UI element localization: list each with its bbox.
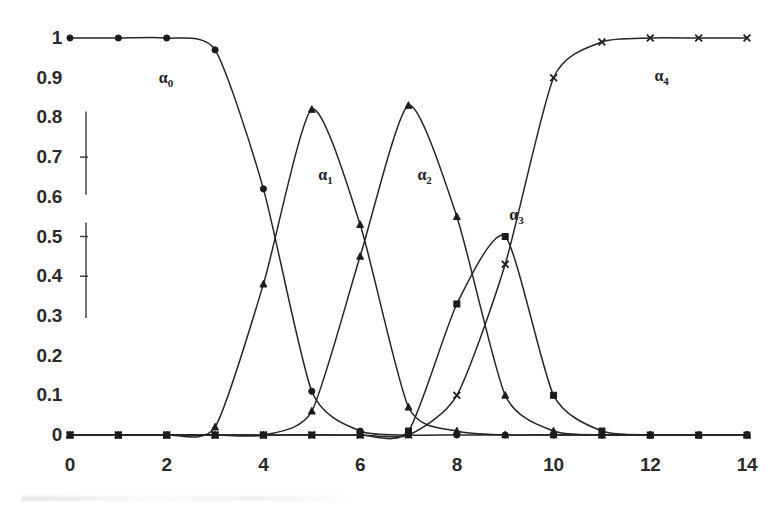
data-point-marker: [744, 432, 750, 438]
alpha-3-label: α3: [509, 207, 523, 226]
data-point-marker: [357, 221, 364, 228]
series-line-alpha-4: [70, 38, 747, 437]
data-point-marker: [647, 432, 653, 438]
data-point-marker: [696, 432, 702, 438]
data-point-marker: [405, 403, 412, 410]
alpha-glyph: α: [159, 69, 168, 86]
alpha-subscript: 4: [663, 75, 669, 87]
data-point-marker: [212, 47, 218, 53]
alpha-4-label: α4: [654, 68, 668, 87]
alpha-subscript: 1: [327, 174, 333, 186]
series-line-alpha-0: [70, 37, 747, 435]
data-point-marker: [357, 253, 364, 260]
series-curves: [70, 37, 747, 438]
data-point-marker: [502, 392, 509, 399]
chart-figure: 00.10.20.30.40.50.60.70.80.91 0246810121…: [0, 0, 775, 506]
data-point-marker: [309, 388, 315, 394]
data-point-marker: [550, 74, 557, 81]
series-markers: [67, 35, 751, 439]
alpha-0-label: α0: [159, 70, 173, 89]
alpha-glyph: α: [654, 67, 663, 84]
data-point-marker: [164, 35, 170, 41]
scan-artifact: [22, 496, 352, 501]
alpha-1-label: α1: [318, 167, 332, 186]
data-point-marker: [67, 35, 73, 41]
y-axis-line-fragments: [80, 111, 88, 317]
data-point-marker: [454, 301, 460, 307]
alpha-glyph: α: [509, 206, 518, 223]
data-point-marker: [453, 392, 460, 399]
alpha-2-label: α2: [417, 167, 431, 186]
alpha-glyph: α: [318, 166, 327, 183]
data-point-marker: [260, 186, 266, 192]
data-point-marker: [502, 234, 508, 240]
alpha-subscript: 3: [518, 214, 524, 226]
alpha-subscript: 2: [426, 174, 432, 186]
data-point-marker: [260, 280, 267, 287]
data-point-marker: [551, 392, 557, 398]
alpha-subscript: 0: [168, 77, 174, 89]
data-point-marker: [308, 407, 315, 414]
data-point-marker: [599, 39, 606, 46]
series-line-alpha-1: [70, 109, 747, 437]
data-point-marker: [453, 213, 460, 220]
data-point-marker: [115, 35, 121, 41]
data-point-marker: [599, 428, 605, 434]
series-line-alpha-2: [70, 105, 747, 436]
